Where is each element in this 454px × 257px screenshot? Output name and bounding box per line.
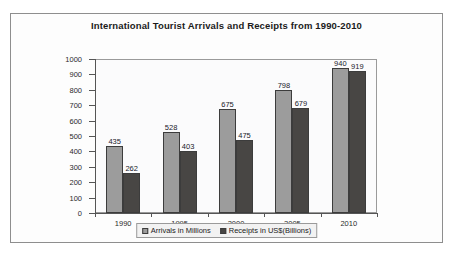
bar-group: 528403	[163, 59, 197, 213]
x-axis-tick	[321, 213, 322, 217]
bar-value-label: 679	[295, 99, 308, 108]
bar[interactable]: 798	[275, 90, 292, 213]
bar[interactable]: 262	[123, 173, 140, 213]
bar-group: 798679	[275, 59, 309, 213]
y-axis-label: 600	[69, 116, 82, 125]
legend-entry[interactable]: Receipts in US$(Billions)	[220, 226, 312, 235]
legend-swatch-receipts	[220, 228, 226, 234]
bar[interactable]: 679	[292, 108, 309, 213]
bar[interactable]: 675	[219, 109, 236, 213]
legend-swatch-arrivals	[142, 228, 148, 234]
bar-value-label: 475	[238, 131, 251, 140]
x-axis-label: 2010	[340, 219, 357, 228]
y-axis-label: 900	[69, 70, 82, 79]
y-axis-tick	[89, 59, 95, 60]
bar-value-label: 262	[125, 164, 138, 173]
y-axis-tick	[89, 151, 95, 152]
bar-group: 675475	[219, 59, 253, 213]
y-axis-label: 400	[69, 147, 82, 156]
x-axis-tick	[95, 213, 96, 217]
y-axis-label: 200	[69, 178, 82, 187]
x-axis-label: 1990	[115, 219, 132, 228]
y-axis-tick	[89, 167, 95, 168]
bar-value-label: 940	[334, 59, 347, 68]
bar-value-label: 919	[351, 62, 364, 71]
bar[interactable]: 475	[236, 140, 253, 213]
x-axis-tick	[264, 213, 265, 217]
y-axis-tick	[89, 121, 95, 122]
y-axis-tick	[89, 90, 95, 91]
bar-value-label: 675	[221, 100, 234, 109]
bar-value-label: 798	[278, 81, 291, 90]
x-axis-tick	[208, 213, 209, 217]
chart-legend: Arrivals in MillionsReceipts in US$(Bill…	[136, 223, 318, 238]
bar[interactable]: 435	[106, 146, 123, 213]
plot-area: 01002003004005006007008009001000 4352625…	[85, 59, 377, 213]
y-axis-label: 100	[69, 193, 82, 202]
legend-label: Receipts in US$(Billions)	[229, 226, 312, 235]
bar[interactable]: 528	[163, 132, 180, 213]
bar-group: 940919	[332, 59, 366, 213]
y-axis-label: 700	[69, 101, 82, 110]
y-axis-label: 800	[69, 85, 82, 94]
x-axis-tick	[377, 213, 378, 217]
y-axis-tick	[89, 198, 95, 199]
bar[interactable]: 940	[332, 68, 349, 213]
legend-entry[interactable]: Arrivals in Millions	[142, 226, 211, 235]
bar-value-label: 528	[165, 123, 178, 132]
legend-label: Arrivals in Millions	[151, 226, 211, 235]
bar-value-label: 403	[182, 142, 195, 151]
chart-title: International Tourist Arrivals and Recei…	[11, 20, 442, 31]
y-axis-label: 500	[69, 132, 82, 141]
y-axis-line	[95, 59, 96, 214]
bar-value-label: 435	[108, 137, 121, 146]
x-axis-tick	[151, 213, 152, 217]
chart-frame: International Tourist Arrivals and Recei…	[10, 13, 443, 243]
y-axis-label: 0	[78, 209, 82, 218]
y-axis-tick	[89, 182, 95, 183]
bar[interactable]: 919	[349, 71, 366, 213]
y-axis-tick	[89, 136, 95, 137]
bar[interactable]: 403	[180, 151, 197, 213]
y-axis-tick	[89, 74, 95, 75]
y-axis-label: 1000	[65, 55, 82, 64]
x-axis-line	[95, 213, 377, 214]
y-axis-label: 300	[69, 162, 82, 171]
y-axis-tick	[89, 105, 95, 106]
bar-group: 435262	[106, 59, 140, 213]
